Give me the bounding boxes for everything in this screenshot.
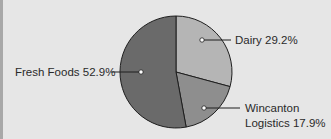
label-fresh-foods: Fresh Foods 52.9% [15,65,115,79]
label-wincanton-line1: Wincanton [245,101,299,115]
label-wincanton-line2: Logistics 17.9% [245,116,326,130]
label-dairy: Dairy 29.2% [235,33,298,47]
callout-dot-fresh-foods [139,70,143,74]
callout-dot-dairy [200,38,204,42]
callout-dot-wincanton [202,106,206,110]
